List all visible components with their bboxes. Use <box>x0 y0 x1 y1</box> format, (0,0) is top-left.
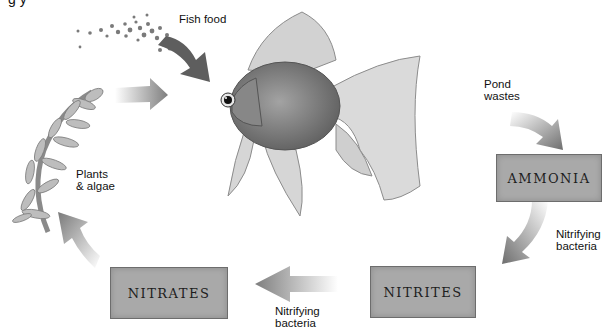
bacteria-label-2-line1: Nitrifying <box>275 305 320 317</box>
nitrates-to-plants-arrow <box>58 212 100 268</box>
pond-wastes-label-line2: wastes <box>484 90 520 102</box>
nitrogen-cycle-diagram: g y Fish food Pond wastes Plants & algae… <box>0 0 610 334</box>
bacteria-label-1-line1: Nitrifying <box>556 228 601 240</box>
fish-food-arrow <box>158 36 210 82</box>
pond-wastes-label-line1: Pond <box>484 78 520 90</box>
nitrites-to-nitrates-arrow <box>255 266 338 302</box>
cropped-heading-fragment: g y <box>8 0 27 5</box>
plants-label-line1: Plants <box>76 168 115 180</box>
plants-algae-label: Plants & algae <box>76 168 115 192</box>
bacteria-label-1-line2: bacteria <box>556 240 601 252</box>
ammonia-to-nitrites-arrow <box>502 200 548 264</box>
ammonia-box: AMMONIA <box>496 154 602 202</box>
nitrites-label: NITRITES <box>383 285 462 300</box>
ammonia-label: AMMONIA <box>507 171 590 186</box>
plants-label-line2: & algae <box>76 180 115 192</box>
nitrifying-bacteria-label-1: Nitrifying bacteria <box>556 228 601 252</box>
fish-food-particles <box>77 14 173 53</box>
fish-food-label: Fish food <box>179 13 226 25</box>
wastes-to-ammonia-arrow <box>510 112 563 150</box>
plant-illustration <box>12 86 106 232</box>
plants-to-fish-arrow <box>115 78 168 110</box>
nitrifying-bacteria-label-2: Nitrifying bacteria <box>275 305 320 329</box>
pond-wastes-label: Pond wastes <box>484 78 520 102</box>
nitrates-label: NITRATES <box>128 286 211 301</box>
nitrates-box: NITRATES <box>110 267 228 319</box>
bacteria-label-2-line2: bacteria <box>275 317 320 329</box>
nitrites-box: NITRITES <box>370 266 476 318</box>
goldfish-illustration <box>221 12 420 216</box>
